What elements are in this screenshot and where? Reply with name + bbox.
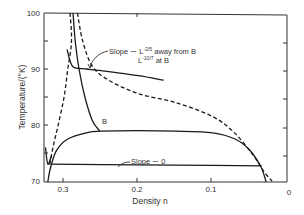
top-axis <box>44 13 287 15</box>
x-tick-0.1: 0.1 <box>205 185 217 194</box>
steep-branch-to-B-curve <box>73 13 100 131</box>
x-tick-0.3: 0.3 <box>57 185 69 194</box>
slope-at-B-text: L-10/7 at B <box>138 55 169 65</box>
right-dashed-curve <box>78 13 273 181</box>
y-tick-80: 80 <box>31 121 40 130</box>
y-axis-label: Temperature/(°K) <box>17 64 27 129</box>
y-tick-90: 90 <box>31 65 40 74</box>
density-temperature-chart: 100 90 80 70 0.3 0.2 0.1 0 Density n Tem… <box>0 0 304 215</box>
slope-annotation-upper: Slope ∼ L-2/5 away from B L-10/7 at B <box>88 46 196 68</box>
annotation-arrow-upper <box>90 51 108 67</box>
point-B-label: B <box>102 117 107 126</box>
slope-zero-text: Slope ∼ 0 <box>131 157 166 166</box>
y-tick-70: 70 <box>31 177 40 186</box>
x-tick-0.2: 0.2 <box>131 185 143 194</box>
x-axis-label: Density n <box>132 196 168 206</box>
y-tick-100: 100 <box>27 9 41 18</box>
left-dashed-curve <box>49 13 71 167</box>
x-tick-0: 0 <box>287 188 292 197</box>
slope-annotation-zero: Slope ∼ 0 <box>118 157 166 167</box>
